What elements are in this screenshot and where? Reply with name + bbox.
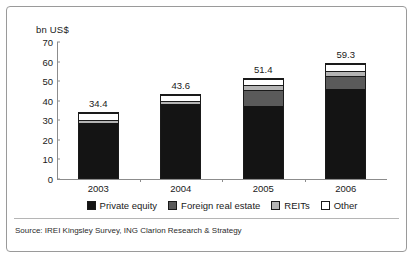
bar-group: 34.4 [78, 42, 119, 179]
y-axis-tick-label: 60 [42, 56, 53, 67]
bar-segment[interactable] [244, 106, 283, 178]
bar-segment[interactable] [326, 89, 365, 178]
x-axis-tick-label: 2006 [335, 183, 356, 194]
legend-item[interactable]: Other [321, 200, 358, 211]
bar-group: 43.6 [160, 42, 201, 179]
legend-swatch-icon [271, 201, 280, 210]
bar-segment[interactable] [79, 123, 118, 178]
y-axis-tick-label: 0 [48, 174, 53, 185]
stacked-bar[interactable] [243, 78, 284, 179]
stacked-bar[interactable] [325, 63, 366, 179]
legend-swatch-icon [321, 201, 330, 210]
source-note: Source: IREI Kingsley Survey, ING Clario… [15, 226, 242, 235]
y-axis-tick-label: 20 [42, 134, 53, 145]
chart-figure: bn US$ 010203040506070 34.443.651.459.3 … [0, 0, 413, 258]
bar-group: 59.3 [325, 42, 366, 179]
legend-swatch-icon [168, 201, 177, 210]
legend-item[interactable]: Foreign real estate [168, 200, 260, 211]
x-axis-tick-mark [305, 179, 306, 182]
source-divider [14, 218, 399, 219]
legend-label: Private equity [100, 200, 158, 211]
legend-label: Other [334, 200, 358, 211]
x-axis-tick-mark [222, 179, 223, 182]
y-axis-tick-label: 70 [42, 37, 53, 48]
y-axis-tick-label: 40 [42, 95, 53, 106]
chart-legend: Private equityForeign real estateREITsOt… [57, 200, 387, 211]
x-axis-tick-label: 2003 [88, 183, 109, 194]
x-axis-tick-label: 2005 [253, 183, 274, 194]
bar-segment[interactable] [326, 76, 365, 89]
x-axis-tick-mark [140, 179, 141, 182]
y-axis-title: bn US$ [36, 24, 69, 35]
bar-value-label: 43.6 [172, 80, 191, 91]
legend-label: Foreign real estate [181, 200, 260, 211]
legend-swatch-icon [87, 201, 96, 210]
bar-value-label: 34.4 [89, 98, 108, 109]
bar-group: 51.4 [243, 42, 284, 179]
legend-label: REITs [284, 200, 309, 211]
bar-segment[interactable] [244, 90, 283, 106]
legend-item[interactable]: Private equity [87, 200, 158, 211]
plot-bars: 34.443.651.459.3 [57, 42, 387, 179]
stacked-bar[interactable] [160, 94, 201, 179]
bar-segment[interactable] [161, 104, 200, 178]
y-axis-tick-labels: 010203040506070 [26, 42, 53, 179]
x-axis-tick-label: 2004 [170, 183, 191, 194]
stacked-bar[interactable] [78, 112, 119, 179]
y-axis-tick-label: 50 [42, 76, 53, 87]
bar-value-label: 51.4 [254, 64, 273, 75]
bar-value-label: 59.3 [337, 49, 356, 60]
bar-segment[interactable] [79, 113, 118, 121]
y-axis-tick-label: 10 [42, 154, 53, 165]
bar-segment[interactable] [161, 95, 200, 102]
y-axis-tick-label: 30 [42, 115, 53, 126]
bar-segment[interactable] [326, 64, 365, 71]
legend-item[interactable]: REITs [271, 200, 309, 211]
